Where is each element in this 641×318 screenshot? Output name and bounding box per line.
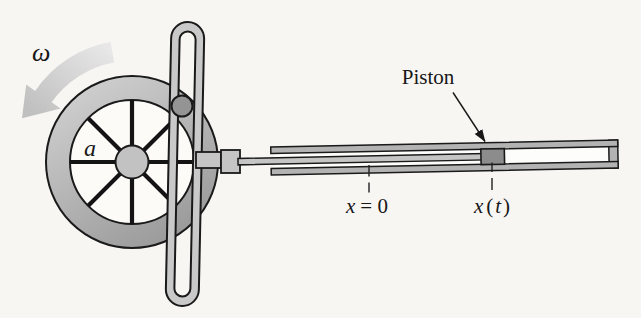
figure-canvas: ω a (0, 0, 641, 318)
angular-velocity-label: ω (32, 38, 50, 67)
x-zero-value: = 0 (360, 194, 388, 218)
piston (481, 149, 505, 165)
scotch-yoke-diagram: ω a (0, 0, 641, 318)
piston-label: Piston (402, 65, 455, 89)
crank-radius-label: a (84, 135, 96, 161)
wheel-hub (116, 146, 149, 179)
x-zero-variable: x (345, 194, 356, 218)
x-zero-label: x= 0 (345, 194, 388, 218)
x-t-close-paren: ) (503, 194, 510, 218)
crank-pin (172, 96, 193, 117)
yoke-arm (196, 152, 221, 168)
x-t-open-paren: ( (486, 194, 493, 218)
x-t-label: x(t) (473, 194, 510, 218)
x-t-variable: x (473, 194, 484, 218)
yoke-block (221, 150, 240, 173)
